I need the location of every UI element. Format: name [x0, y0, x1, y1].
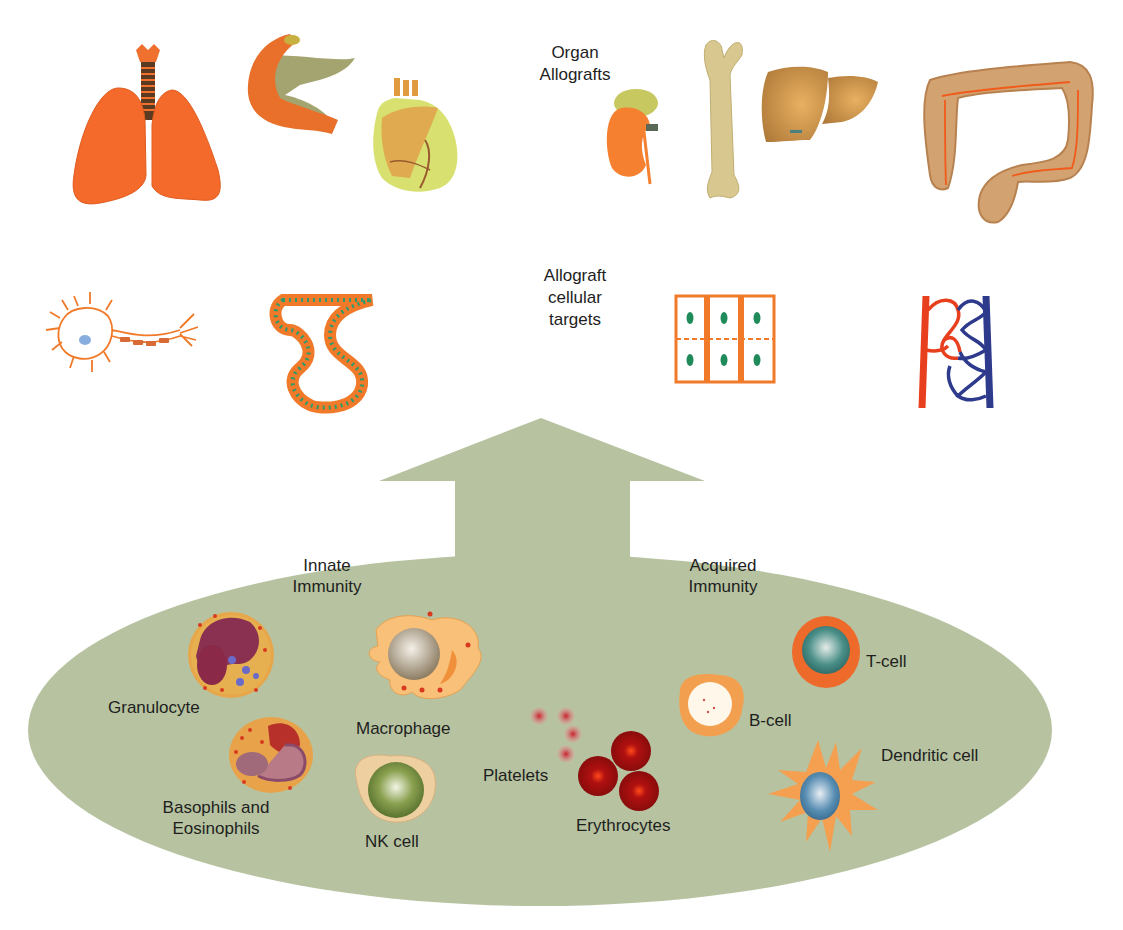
heart-icon — [373, 78, 457, 192]
kidney-icon — [607, 89, 658, 184]
neuron-nucleus-icon — [79, 335, 91, 345]
macrophage-label: Macrophage — [356, 718, 451, 739]
acquired-immunity-heading: Acquired Immunity — [648, 555, 798, 597]
heading-line: Allograft — [485, 265, 665, 287]
pancreas-icon — [248, 34, 355, 134]
t-cell-label: T-cell — [866, 651, 907, 672]
t-cell-icon — [792, 616, 860, 688]
granulocyte-label: Granulocyte — [108, 697, 200, 718]
colon-icon — [924, 62, 1093, 223]
heading-line: Acquired — [648, 555, 798, 576]
heading-line: cellular — [485, 287, 665, 309]
cellular-targets-heading: Allograft cellular targets — [485, 265, 665, 331]
upward-arrow-icon — [379, 418, 705, 560]
platelets-label: Platelets — [483, 765, 548, 786]
basophils-eosinophils-label: Basophils and Eosinophils — [136, 797, 296, 839]
capillary-network-icon — [922, 296, 990, 408]
dendritic-cell-label: Dendritic cell — [881, 745, 978, 766]
label-line: Eosinophils — [136, 818, 296, 839]
heading-line: Organ — [485, 42, 665, 64]
label-line: Basophils and — [136, 797, 296, 818]
neuron-icon — [46, 292, 198, 372]
heading-line: Immunity — [252, 576, 402, 597]
innate-immunity-heading: Innate Immunity — [252, 555, 402, 597]
b-cell-label: B-cell — [749, 710, 792, 731]
heading-line: Innate — [252, 555, 402, 576]
heading-line: Immunity — [648, 576, 798, 597]
femur-bone-icon — [704, 41, 742, 198]
heading-line: targets — [485, 309, 665, 331]
diagram-canvas — [0, 0, 1123, 930]
cell-grid-icon — [676, 296, 774, 382]
erythrocytes-label: Erythrocytes — [576, 815, 670, 836]
epithelial-tube-icon — [276, 300, 372, 408]
nk-cell-label: NK cell — [365, 831, 419, 852]
basophil-eosinophil-icon — [229, 717, 313, 793]
heading-line: Allografts — [485, 64, 665, 86]
liver-icon — [762, 67, 878, 142]
organ-allografts-heading: Organ Allografts — [485, 42, 665, 86]
lungs-icon — [73, 44, 220, 204]
granulocyte-icon — [188, 612, 274, 698]
